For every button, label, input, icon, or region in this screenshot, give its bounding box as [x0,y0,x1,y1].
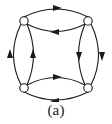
arrowhead-top-outer [53,5,62,11]
arrowhead-left-inner [30,49,36,58]
node-bottom-right[interactable] [84,84,92,92]
node-bottom-left[interactable] [20,84,28,92]
edge-bottom-outer [24,92,88,100]
edge-top-outer [24,9,88,17]
arrowhead-left-outer [7,49,13,58]
figure-caption: (a) [0,100,112,120]
directed-graph-diagram [0,0,112,102]
arrowhead-right-outer [99,52,105,61]
node-top-right[interactable] [84,17,92,25]
edge-left-outer [14,24,22,85]
figure-container: (a) [0,0,112,124]
edge-right-outer [91,24,99,85]
arrowhead-top-inner [50,29,59,35]
arrowhead-right-inner [76,52,82,61]
node-top-left[interactable] [20,17,28,25]
arrowhead-bottom-inner [53,74,62,80]
